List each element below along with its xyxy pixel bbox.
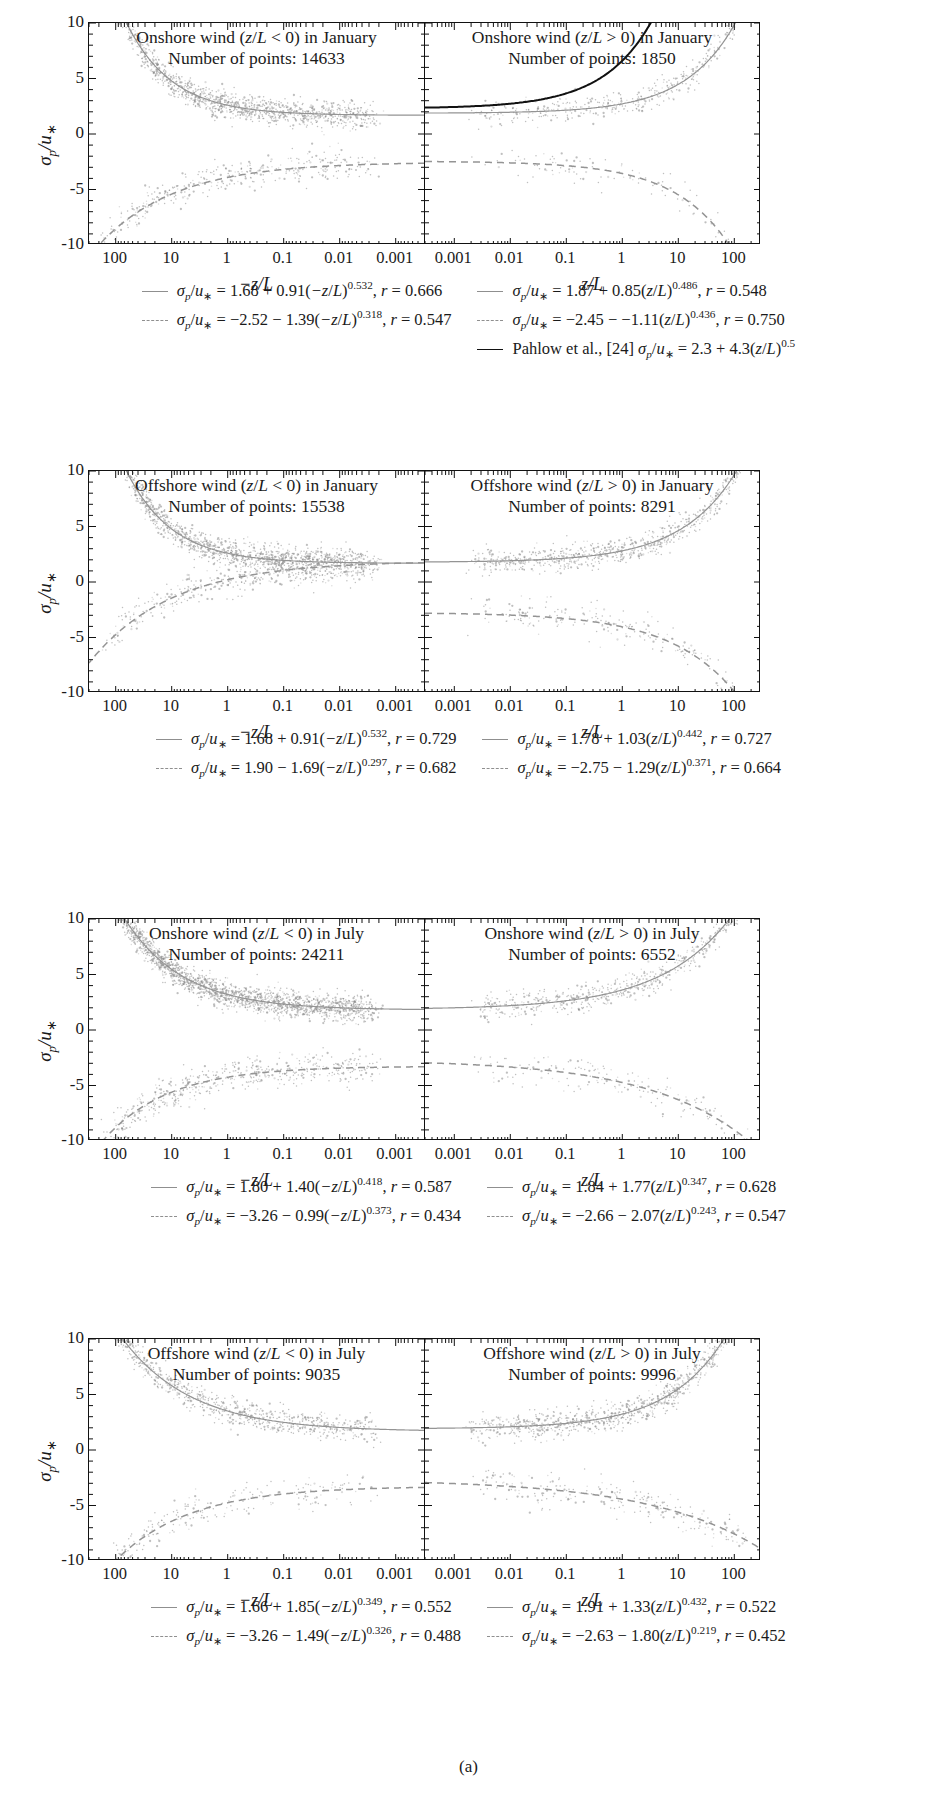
y-tick-label: 5 bbox=[76, 1384, 85, 1404]
legend-marker-dash-icon bbox=[156, 763, 182, 773]
legend-column-left: σp/u∗ = 1.66 + 1.85(−z/L)0.349, r = 0.55… bbox=[151, 1594, 461, 1649]
panel-group-offshore-january: σp/u∗1050-5-10Offshore wind (z/L < 0) in… bbox=[0, 470, 937, 781]
legend-marker-solid-icon bbox=[477, 286, 503, 296]
x-tick-label: 100 bbox=[721, 1564, 746, 1584]
scatter-plot-left bbox=[89, 1339, 424, 1559]
x-tick-label: 100 bbox=[102, 1564, 127, 1584]
scatter-plot-left bbox=[89, 23, 424, 243]
legend-label: σp/u∗ = −2.52 − 1.39(−z/L)0.318, r = 0.5… bbox=[177, 307, 452, 333]
legend-item: σp/u∗ = −2.45 − −1.11(z/L)0.436, r = 0.7… bbox=[477, 307, 795, 333]
legend-item: σp/u∗ = 1.84 + 1.77(z/L)0.347, r = 0.628 bbox=[487, 1174, 786, 1200]
x-tick-label: 1 bbox=[223, 1564, 231, 1584]
figure-panel-a: σp/u∗1050-5-10Onshore wind (z/L < 0) in … bbox=[0, 0, 937, 1793]
x-tick-label: 0.1 bbox=[272, 1144, 293, 1164]
legend-label: σp/u∗ = 1.68 + 0.91(−z/L)0.532, r = 0.72… bbox=[191, 726, 456, 752]
plot-row: σp/u∗1050-5-10Offshore wind (z/L < 0) in… bbox=[0, 470, 937, 716]
x-tick-label: 100 bbox=[102, 1144, 127, 1164]
x-tick-label: 10 bbox=[162, 1564, 179, 1584]
x-tick-label: 100 bbox=[721, 696, 746, 716]
legend-label: σp/u∗ = 1.91 + 1.33(z/L)0.432, r = 0.522 bbox=[522, 1594, 776, 1620]
x-tick-label: 10 bbox=[162, 248, 179, 268]
legend-label: σp/u∗ = 1.68 + 0.91(−z/L)0.532, r = 0.66… bbox=[177, 278, 442, 304]
legend-item: σp/u∗ = 1.91 + 1.33(z/L)0.432, r = 0.522 bbox=[487, 1594, 786, 1620]
scatter-plot-right bbox=[425, 23, 759, 243]
legend-marker-solid-icon bbox=[142, 286, 168, 296]
x-tick-label: 10 bbox=[162, 696, 179, 716]
legend-label: σp/u∗ = −2.66 − 2.07(z/L)0.243, r = 0.54… bbox=[522, 1203, 786, 1229]
legend-label: σp/u∗ = −2.63 − 1.80(z/L)0.219, r = 0.45… bbox=[522, 1623, 786, 1649]
legend-marker-dash-icon bbox=[151, 1631, 177, 1641]
x-tick-label: 1 bbox=[223, 248, 231, 268]
legend-column-left: σp/u∗ = 1.68 + 0.91(−z/L)0.532, r = 0.66… bbox=[142, 278, 452, 362]
y-tick-label: -5 bbox=[70, 1075, 84, 1095]
y-tick-label: 0 bbox=[76, 1439, 85, 1459]
y-tick-label: 0 bbox=[76, 1019, 85, 1039]
legend-column-right: σp/u∗ = 1.84 + 1.77(z/L)0.347, r = 0.628… bbox=[487, 1174, 786, 1229]
legend-onshore-july: σp/u∗ = 1.80 + 1.40(−z/L)0.418, r = 0.58… bbox=[0, 1164, 937, 1229]
legend-marker-dash-icon bbox=[142, 315, 168, 325]
y-tick-label: -5 bbox=[70, 1495, 84, 1515]
legend-item: σp/u∗ = 1.78 + 1.03(z/L)0.442, r = 0.727 bbox=[482, 726, 781, 752]
legend-column-right: σp/u∗ = 1.87 + 0.85(z/L)0.486, r = 0.548… bbox=[477, 278, 795, 362]
legend-item: σp/u∗ = −2.75 − 1.29(z/L)0.371, r = 0.66… bbox=[482, 755, 781, 781]
x-tick-label: 1 bbox=[223, 696, 231, 716]
panel-group-onshore-january: σp/u∗1050-5-10Onshore wind (z/L < 0) in … bbox=[0, 22, 937, 362]
legend-item: σp/u∗ = −3.26 − 1.49(−z/L)0.326, r = 0.4… bbox=[151, 1623, 461, 1649]
legend-marker-dash-icon bbox=[151, 1211, 177, 1221]
legend-item: σp/u∗ = −2.66 − 2.07(z/L)0.243, r = 0.54… bbox=[487, 1203, 786, 1229]
x-tick-label: 1 bbox=[617, 1144, 625, 1164]
scatter-plot-right bbox=[425, 1339, 759, 1559]
panel-group-onshore-july: σp/u∗1050-5-10Onshore wind (z/L < 0) in … bbox=[0, 918, 937, 1229]
legend-marker-dash-icon bbox=[487, 1631, 513, 1641]
x-tick-label: 0.01 bbox=[495, 1564, 524, 1584]
x-tick-label: 1 bbox=[617, 1564, 625, 1584]
plot-row: σp/u∗1050-5-10Onshore wind (z/L < 0) in … bbox=[0, 22, 937, 268]
x-tick-label: 100 bbox=[721, 1144, 746, 1164]
y-tick-label: 0 bbox=[76, 571, 85, 591]
y-tick-labels: 1050-5-10 bbox=[44, 22, 84, 268]
legend-label: σp/u∗ = 1.87 + 0.85(z/L)0.486, r = 0.548 bbox=[512, 278, 766, 304]
y-tick-label: -10 bbox=[61, 1130, 84, 1150]
y-tick-label: -10 bbox=[61, 234, 84, 254]
legend-marker-dash-icon bbox=[482, 763, 508, 773]
x-tick-label: 0.01 bbox=[324, 248, 353, 268]
y-tick-label: 5 bbox=[76, 964, 85, 984]
plot-axes-left: Onshore wind (z/L < 0) in JanuaryNumber … bbox=[88, 22, 424, 244]
y-tick-labels: 1050-5-10 bbox=[44, 1338, 84, 1584]
legend-label: σp/u∗ = −3.26 − 1.49(−z/L)0.326, r = 0.4… bbox=[186, 1623, 461, 1649]
legend-label: σp/u∗ = 1.80 + 1.40(−z/L)0.418, r = 0.58… bbox=[186, 1174, 451, 1200]
x-tick-label: 1 bbox=[617, 248, 625, 268]
plot-row: σp/u∗1050-5-10Offshore wind (z/L < 0) in… bbox=[0, 1338, 937, 1584]
x-tick-label: 10 bbox=[669, 248, 686, 268]
x-tick-label: 0.001 bbox=[435, 1564, 472, 1584]
y-tick-label: -5 bbox=[70, 627, 84, 647]
x-tick-label: 0.01 bbox=[495, 1144, 524, 1164]
x-tick-label: 0.001 bbox=[435, 248, 472, 268]
x-tick-label: 0.1 bbox=[555, 248, 576, 268]
x-tick-label: 0.001 bbox=[376, 1144, 413, 1164]
plot-axes-right: Onshore wind (z/L > 0) in JulyNumber of … bbox=[424, 918, 760, 1140]
legend-label: Pahlow et al., [24] σp/u∗ = 2.3 + 4.3(z/… bbox=[512, 336, 795, 362]
legend-marker-solid-icon bbox=[487, 1182, 513, 1192]
figure-caption: (a) bbox=[0, 1757, 937, 1777]
legend-onshore-january: σp/u∗ = 1.68 + 0.91(−z/L)0.532, r = 0.66… bbox=[0, 268, 937, 362]
x-tick-label: 10 bbox=[669, 1564, 686, 1584]
x-tick-label: 0.001 bbox=[435, 696, 472, 716]
y-tick-label: 5 bbox=[76, 516, 85, 536]
x-tick-label: 0.01 bbox=[324, 1564, 353, 1584]
y-tick-label: 10 bbox=[67, 1328, 84, 1348]
x-tick-label: 0.01 bbox=[324, 1144, 353, 1164]
plot-axes-left: Offshore wind (z/L < 0) in JanuaryNumber… bbox=[88, 470, 424, 692]
plot-axes-left: Offshore wind (z/L < 0) in JulyNumber of… bbox=[88, 1338, 424, 1560]
x-tick-label: 0.01 bbox=[495, 696, 524, 716]
x-tick-label: 1 bbox=[223, 1144, 231, 1164]
y-tick-label: 0 bbox=[76, 123, 85, 143]
legend-marker-black-icon bbox=[477, 344, 503, 354]
legend-label: σp/u∗ = −2.45 − −1.11(z/L)0.436, r = 0.7… bbox=[512, 307, 784, 333]
legend-marker-solid-icon bbox=[482, 734, 508, 744]
scatter-plot-right bbox=[425, 919, 759, 1139]
x-tick-label: 0.1 bbox=[555, 1144, 576, 1164]
plot-axes-right: Offshore wind (z/L > 0) in JanuaryNumber… bbox=[424, 470, 760, 692]
scatter-plot-left bbox=[89, 471, 424, 691]
y-tick-label: -5 bbox=[70, 179, 84, 199]
